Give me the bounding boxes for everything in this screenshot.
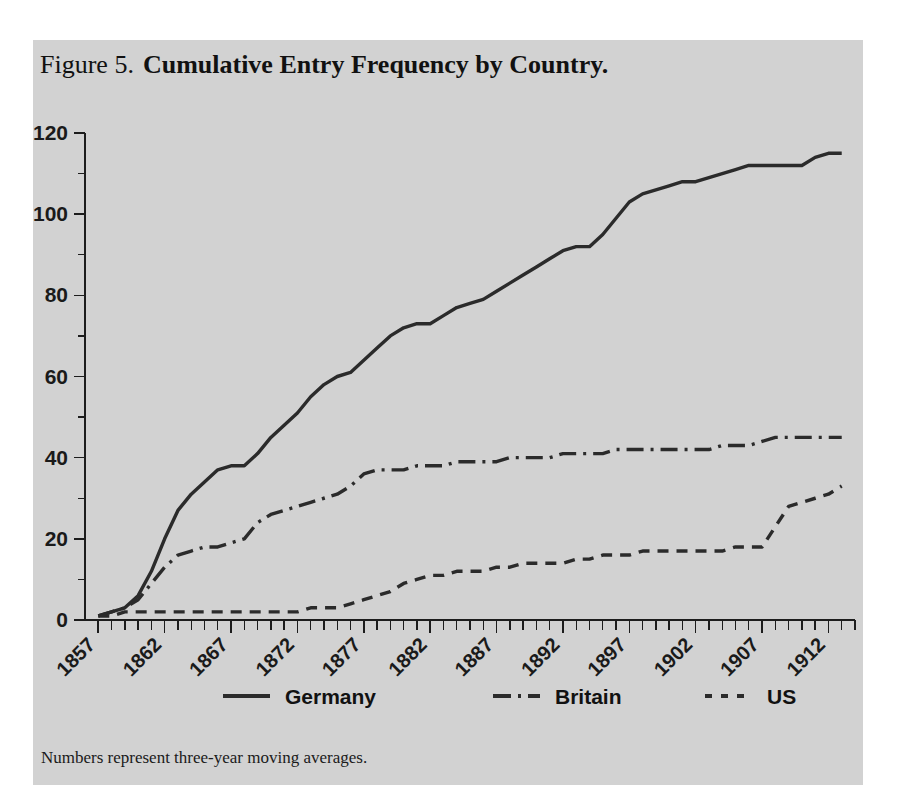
x-tick-label: 1907 [716, 633, 763, 680]
x-tick-label: 1867 [185, 633, 232, 680]
x-tick-label: 1872 [251, 633, 298, 680]
x-tick-label-group: 1877 [318, 633, 365, 680]
x-tick-label-group: 1887 [450, 633, 497, 680]
x-tick-label-group: 1897 [583, 633, 630, 680]
series-line-britain [98, 437, 841, 616]
legend-label-germany: Germany [285, 685, 376, 708]
x-tick-label: 1862 [118, 633, 165, 680]
y-tick-label: 60 [45, 365, 68, 388]
x-tick-label-group: 1857 [52, 633, 99, 680]
x-tick-label-group: 1867 [185, 633, 232, 680]
figure-container: Figure 5.Cumulative Entry Frequency by C… [0, 0, 900, 809]
x-tick-label-group: 1892 [517, 633, 564, 680]
series-line-us [98, 486, 841, 616]
y-tick-label: 80 [45, 283, 68, 306]
x-tick-label: 1912 [782, 633, 829, 680]
figure-number: Figure 5. [40, 50, 134, 79]
figure-note: Numbers represent three-year moving aver… [41, 748, 367, 768]
x-tick-label-group: 1912 [782, 633, 829, 680]
x-tick-label: 1902 [649, 633, 696, 680]
y-tick-label: 120 [33, 121, 68, 144]
y-tick-label: 20 [45, 527, 68, 550]
legend-label-britain: Britain [555, 685, 622, 708]
legend-label-us: US [767, 685, 796, 708]
x-tick-label: 1877 [318, 633, 365, 680]
x-tick-label-group: 1872 [251, 633, 298, 680]
x-tick-label: 1897 [583, 633, 630, 680]
y-tick-label: 100 [33, 202, 68, 225]
plot-layer: 0204060801001201857186218671872187718821… [33, 121, 855, 708]
x-tick-label: 1887 [450, 633, 497, 680]
y-tick-label: 40 [45, 446, 68, 469]
x-tick-label-group: 1907 [716, 633, 763, 680]
x-tick-label: 1857 [52, 633, 99, 680]
cumulative-entry-frequency-chart: 0204060801001201857186218671872187718821… [33, 96, 863, 741]
figure-title: Cumulative Entry Frequency by Country. [143, 50, 608, 79]
x-tick-label-group: 1882 [384, 633, 431, 680]
x-tick-label: 1882 [384, 633, 431, 680]
x-tick-label-group: 1902 [649, 633, 696, 680]
x-tick-label-group: 1862 [118, 633, 165, 680]
y-tick-label: 0 [56, 608, 68, 631]
x-tick-label: 1892 [517, 633, 564, 680]
figure-caption: Figure 5.Cumulative Entry Frequency by C… [40, 48, 830, 88]
